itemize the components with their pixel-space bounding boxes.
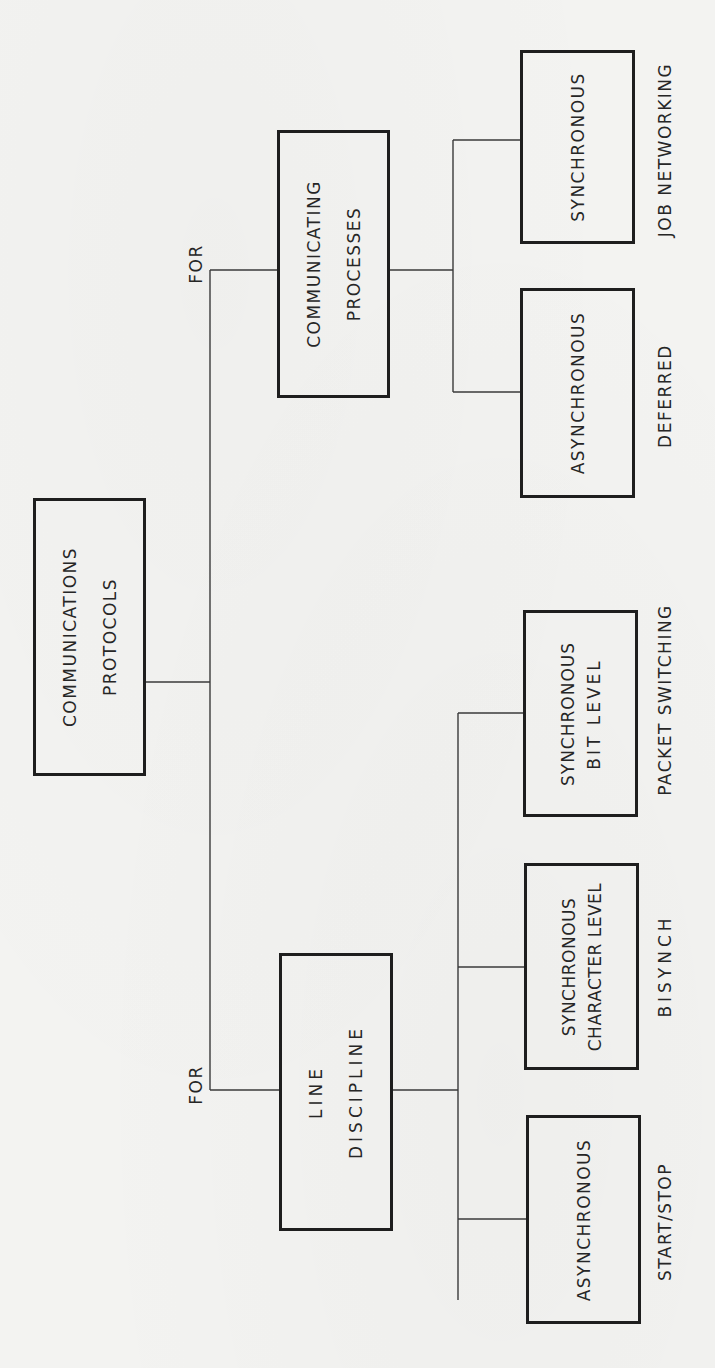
leaf-line-2: BIT LEVEL	[581, 641, 607, 785]
node-line-discipline: LINE DISCIPLINE	[279, 953, 393, 1231]
root-node-line-1: COMMUNICATIONS	[50, 547, 90, 727]
node-communicating-processes-label: COMMUNICATING PROCESSES	[294, 180, 374, 348]
leaf-line-1: ASYNCHRONOUS	[564, 1138, 604, 1301]
example-start-stop: START/STOP	[655, 1163, 675, 1281]
example-deferred: DEFERRED	[655, 344, 675, 448]
node-line-2: PROCESSES	[334, 180, 374, 348]
node-communicating-processes: COMMUNICATING PROCESSES	[277, 130, 390, 398]
example-packet-switching: PACKET SWITCHING	[655, 604, 675, 796]
diagram-canvas: COMMUNICATIONS PROTOCOLS FOR FOR COMMUNI…	[0, 0, 715, 1368]
example-bisynch: BISYNCH	[655, 914, 675, 1017]
connector-label-for-top: FOR	[186, 244, 206, 283]
node-line-1: LINE	[296, 1025, 336, 1159]
root-node-communications-protocols: COMMUNICATIONS PROTOCOLS	[33, 498, 146, 776]
node-line-discipline-label: LINE DISCIPLINE	[296, 1025, 376, 1159]
root-node-label: COMMUNICATIONS PROTOCOLS	[50, 547, 130, 727]
node-line-2: DISCIPLINE	[336, 1025, 376, 1159]
node-line-1: COMMUNICATING	[294, 180, 334, 348]
leaf-label: SYNCHRONOUS CHARACTER LEVEL	[556, 882, 608, 1051]
leaf-line-2: CHARACTER LEVEL	[582, 882, 608, 1051]
leaf-label: ASYNCHRONOUS	[558, 312, 598, 475]
leaf-line-1: SYNCHRONOUS	[558, 72, 598, 222]
leaf-asynchronous-process: ASYNCHRONOUS	[520, 288, 635, 498]
connector-label-for-bottom: FOR	[186, 1065, 206, 1104]
root-node-line-2: PROTOCOLS	[90, 547, 130, 727]
leaf-synchronous-bit-level: SYNCHRONOUS BIT LEVEL	[523, 610, 638, 817]
leaf-label: SYNCHRONOUS	[558, 72, 598, 222]
leaf-line-1: SYNCHRONOUS	[555, 641, 581, 785]
leaf-synchronous-character-level: SYNCHRONOUS CHARACTER LEVEL	[524, 863, 639, 1070]
leaf-label: ASYNCHRONOUS	[564, 1138, 604, 1301]
leaf-line-1: ASYNCHRONOUS	[558, 312, 598, 475]
leaf-label: SYNCHRONOUS BIT LEVEL	[555, 641, 607, 785]
example-job-networking: JOB NETWORKING	[655, 63, 675, 237]
leaf-line-1: SYNCHRONOUS	[556, 882, 582, 1051]
leaf-asynchronous-line: ASYNCHRONOUS	[526, 1115, 641, 1324]
leaf-synchronous-process: SYNCHRONOUS	[520, 50, 635, 244]
